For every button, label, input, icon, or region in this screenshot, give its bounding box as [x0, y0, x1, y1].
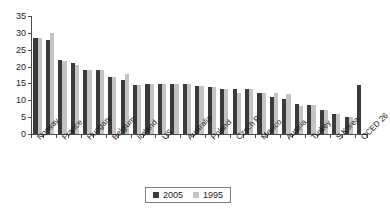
- bar-group: [331, 16, 343, 134]
- legend-swatch-icon-2005: [153, 192, 159, 198]
- legend-label-1995: 1995: [203, 190, 223, 200]
- bar-group: [219, 16, 231, 134]
- bar-1995: [112, 77, 116, 134]
- bar-1995: [187, 84, 191, 134]
- bar-group: [57, 16, 69, 134]
- bar-group: [144, 16, 156, 134]
- bar-1995: [174, 84, 178, 134]
- y-tick-label: 15: [16, 79, 26, 88]
- y-tick-label: 25: [16, 45, 26, 54]
- bar-group: [231, 16, 243, 134]
- x-axis-labels: NorwayFranceHungaryBelgiumIrelandUSAustr…: [31, 136, 367, 182]
- legend-item-2005: 2005: [153, 190, 183, 200]
- bar-1995: [162, 84, 166, 134]
- y-tick-label: 0: [21, 130, 26, 139]
- legend-item-1995: 1995: [193, 190, 223, 200]
- y-tick-label: 10: [16, 96, 26, 105]
- bar-group: [356, 16, 368, 134]
- y-tick-label: 30: [16, 28, 26, 37]
- bars-layer: [32, 16, 367, 134]
- bar-group: [169, 16, 181, 134]
- y-tick-label: 20: [16, 62, 26, 71]
- bar-group: [268, 16, 280, 134]
- bar-group: [82, 16, 94, 134]
- chart-legend: 2005 1995: [145, 187, 231, 203]
- bar-group: [132, 16, 144, 134]
- bar-1995: [62, 61, 66, 134]
- bar-group: [32, 16, 44, 134]
- bar-group: [281, 16, 293, 134]
- bar-group: [156, 16, 168, 134]
- bar-1995: [137, 85, 141, 134]
- plot-area: 05101520253035: [31, 16, 367, 134]
- legend-swatch-icon-1995: [193, 192, 199, 198]
- bar-1995: [212, 87, 216, 134]
- y-tick-label: 35: [16, 12, 26, 21]
- y-tick-label: 5: [21, 113, 26, 122]
- bar-2005: [357, 85, 361, 134]
- legend-label-2005: 2005: [163, 190, 183, 200]
- bar-group: [69, 16, 81, 134]
- bar-group: [318, 16, 330, 134]
- bar-group: [181, 16, 193, 134]
- bar-1995: [87, 70, 91, 134]
- bar-group: [293, 16, 305, 134]
- bar-1995: [38, 38, 42, 134]
- bar-group: [306, 16, 318, 134]
